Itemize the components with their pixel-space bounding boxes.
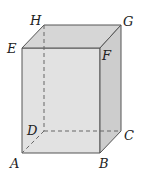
vertex-label-d: D <box>26 123 38 138</box>
vertex-label-g: G <box>123 14 133 29</box>
vertex-label-h: H <box>29 13 42 28</box>
right-face <box>100 25 121 153</box>
vertex-label-e: E <box>6 41 17 56</box>
vertex-label-f: F <box>101 48 112 63</box>
vertex-label-b: B <box>98 156 109 171</box>
vertex-label-c: C <box>124 128 134 143</box>
vertex-label-a: A <box>9 156 19 171</box>
prism-diagram: A B C D E F G H <box>0 0 142 178</box>
